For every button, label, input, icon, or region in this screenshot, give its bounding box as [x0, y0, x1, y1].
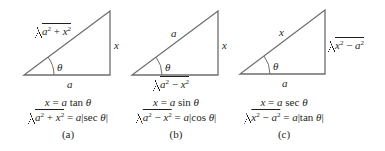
triangle-c-outline — [240, 10, 325, 74]
opposite-label: x2 − a2 — [328, 40, 364, 51]
angle-label: θ — [273, 61, 278, 72]
figure-c: x x2 − a2 θ a x = a sec θ x2 − a2 = a|ta… — [0, 0, 385, 151]
identity-equation: x2 − a2 = a|tan θ| — [244, 112, 323, 123]
substitution-equation: x = a sec θ — [260, 97, 307, 108]
angle-arc-icon — [264, 56, 270, 74]
triangle-c — [0, 0, 385, 151]
figure-label: (c) — [278, 129, 290, 140]
adjacent-label: a — [282, 78, 288, 89]
radical-sign: x2 − a2 — [328, 40, 364, 51]
hypotenuse-label: x — [279, 27, 284, 38]
radical-sign: x2 − a2 — [244, 112, 280, 123]
